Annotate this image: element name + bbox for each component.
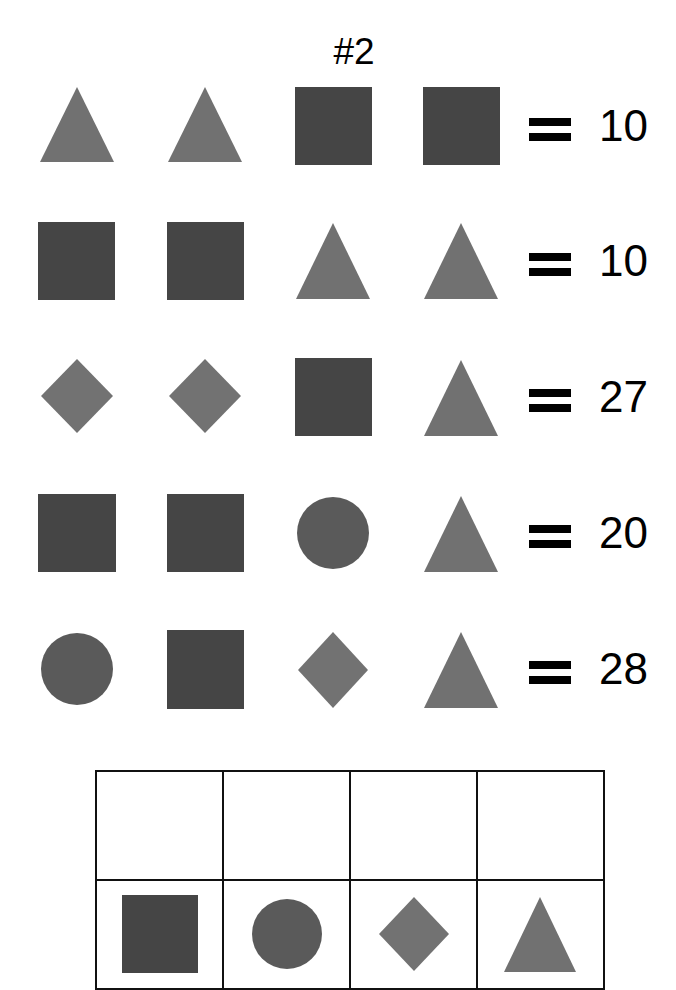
triangle-icon <box>165 86 245 166</box>
square-icon <box>293 357 373 437</box>
circle-icon <box>247 894 327 974</box>
equation-result: 28 <box>599 645 648 693</box>
equals-bar-top <box>529 525 571 533</box>
triangle-icon <box>421 493 501 573</box>
equals-sign <box>529 493 571 573</box>
diamond-icon <box>374 894 454 974</box>
answer-grid <box>95 770 605 990</box>
equals-bar-bottom <box>529 540 571 548</box>
puzzle-title: #2 <box>0 30 676 74</box>
equals-bar-top <box>529 118 571 126</box>
answer-cell-diamond[interactable] <box>350 771 477 880</box>
equals-bar-bottom <box>529 133 571 141</box>
triangle-icon <box>421 629 501 709</box>
diamond-icon <box>37 357 117 437</box>
square-icon <box>293 86 373 166</box>
answer-cell-circle[interactable] <box>223 771 350 880</box>
equals-bar-top <box>529 661 571 669</box>
circle-icon <box>37 629 117 709</box>
square-icon <box>165 629 245 709</box>
triangle-icon <box>37 86 117 166</box>
equation-result: 27 <box>599 373 648 421</box>
equation-result: 10 <box>599 102 648 150</box>
key-cell-diamond <box>350 880 477 989</box>
equals-bar-bottom <box>529 404 571 412</box>
equals-sign <box>529 86 571 166</box>
equals-bar-top <box>529 253 571 261</box>
diamond-icon <box>165 357 245 437</box>
equals-bar-bottom <box>529 676 571 684</box>
square-icon <box>37 221 117 301</box>
square-icon <box>120 894 200 974</box>
equation-row-4: 20 <box>0 493 676 573</box>
equation-row-1: 10 <box>0 86 676 166</box>
circle-icon <box>293 493 373 573</box>
equation-row-5: 28 <box>0 629 676 709</box>
equals-sign <box>529 221 571 301</box>
diamond-icon <box>293 629 373 709</box>
key-row <box>96 880 604 989</box>
square-icon <box>37 493 117 573</box>
square-icon <box>165 221 245 301</box>
triangle-icon <box>421 221 501 301</box>
equals-bar-top <box>529 389 571 397</box>
answer-cell-square[interactable] <box>96 771 223 880</box>
square-icon <box>421 86 501 166</box>
triangle-icon <box>293 221 373 301</box>
equation-row-3: 27 <box>0 357 676 437</box>
triangle-icon <box>421 357 501 437</box>
equation-result: 20 <box>599 509 648 557</box>
equation-row-2: 10 <box>0 221 676 301</box>
answer-cell-triangle[interactable] <box>477 771 604 880</box>
equals-bar-bottom <box>529 268 571 276</box>
key-cell-triangle <box>477 880 604 989</box>
key-cell-circle <box>223 880 350 989</box>
equals-sign <box>529 357 571 437</box>
equals-sign <box>529 629 571 709</box>
answer-row <box>96 771 604 880</box>
square-icon <box>165 493 245 573</box>
key-cell-square <box>96 880 223 989</box>
equation-result: 10 <box>599 237 648 285</box>
triangle-icon <box>501 894 581 974</box>
